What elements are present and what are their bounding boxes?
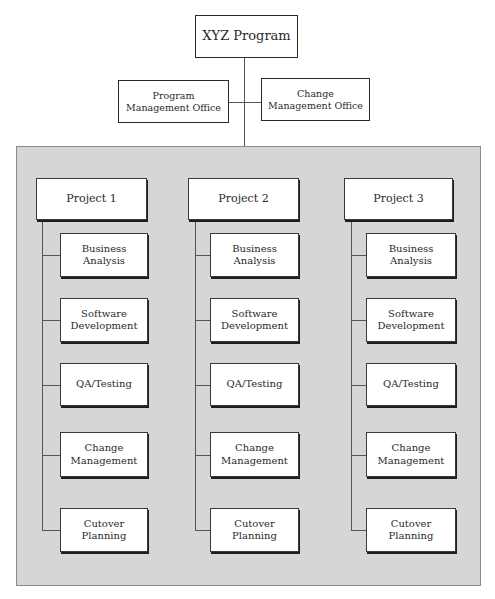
function-box: Business Analysis [210,233,299,277]
branch-line [195,255,210,256]
function-label: Software Development [215,308,294,333]
function-label: QA/Testing [227,378,283,391]
function-box: Change Management [210,432,299,477]
function-label: QA/Testing [76,378,132,391]
program-management-office-box: Program Management Office [118,80,229,123]
function-box: Business Analysis [366,233,456,277]
project-label: Project 1 [66,192,116,206]
project-box: Project 2 [188,178,299,220]
function-box: Software Development [366,298,456,342]
branch-line [42,385,60,386]
function-label: Change Management [371,442,451,467]
function-box: QA/Testing [210,363,299,406]
function-label: Cutover Planning [371,518,451,543]
branch-line [351,530,366,531]
function-label: Cutover Planning [215,518,294,543]
branch-line [351,320,366,321]
branch-line [195,385,210,386]
function-box: Cutover Planning [210,508,299,552]
function-label: Software Development [371,308,451,333]
function-box: Change Management [60,432,148,477]
branch-line [195,455,210,456]
project-spine-line [42,219,43,530]
program-box: XYZ Program [195,15,298,58]
branch-line [195,530,210,531]
project-box: Project 3 [344,178,453,220]
function-box: Software Development [60,298,148,342]
branch-line [351,255,366,256]
branch-line [351,385,366,386]
office-label: Program Management Office [123,90,224,114]
function-box: Change Management [366,432,456,477]
function-label: QA/Testing [383,378,439,391]
office-label: Change Management Office [266,88,365,112]
function-label: Cutover Planning [65,518,143,543]
function-label: Change Management [215,442,294,467]
change-management-office-box: Change Management Office [261,78,370,121]
branch-line [42,320,60,321]
function-box: Software Development [210,298,299,342]
project-box: Project 1 [36,178,147,220]
project-spine-line [351,219,352,530]
function-label: Business Analysis [65,243,143,268]
program-title: XYZ Program [202,28,290,44]
branch-line [42,530,60,531]
branch-line [195,320,210,321]
function-box: QA/Testing [366,363,456,406]
branch-line [42,455,60,456]
function-label: Business Analysis [215,243,294,268]
function-box: Cutover Planning [60,508,148,552]
project-label: Project 3 [373,192,423,206]
branch-line [42,255,60,256]
function-box: QA/Testing [60,363,148,406]
project-label: Project 2 [218,192,268,206]
branch-line [351,455,366,456]
function-label: Business Analysis [371,243,451,268]
function-label: Software Development [65,308,143,333]
connector-offices [228,102,261,103]
function-box: Business Analysis [60,233,148,277]
function-label: Change Management [65,442,143,467]
function-box: Cutover Planning [366,508,456,552]
project-spine-line [195,219,196,530]
